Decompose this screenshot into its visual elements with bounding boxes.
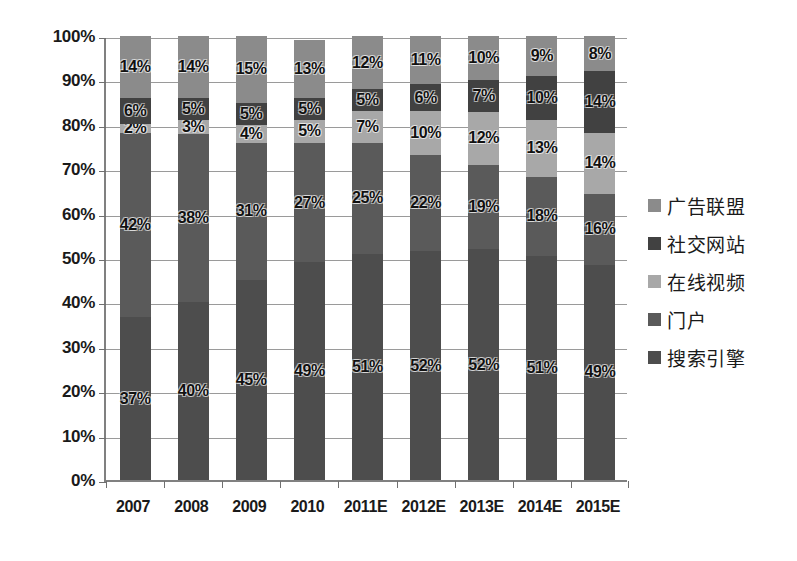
bar-stack[interactable]: 45%31%4%5%15% [236,36,267,480]
bar-segment[interactable]: 37% [120,317,151,480]
bar-stack[interactable]: 51%18%13%10%9% [526,36,557,480]
bar-segment[interactable]: 14% [584,71,615,133]
y-axis-tick-label: 30% [29,338,95,358]
y-tick-mark [99,260,106,261]
legend-item[interactable]: 搜索引擎 [648,338,793,376]
bar-value-label: 51% [526,359,557,377]
bar-segment[interactable]: 25% [352,143,383,254]
legend-item[interactable]: 广告联盟 [648,186,793,224]
bar-segment[interactable]: 6% [410,84,441,110]
x-tick-mark [338,481,339,488]
bar-segment[interactable]: 8% [584,36,615,71]
bar-segment[interactable]: 13% [294,40,325,98]
bar-stack[interactable]: 40%38%3%5%14% [178,36,209,480]
bar-segment[interactable]: 31% [236,143,267,281]
bar-segment[interactable]: 18% [526,177,557,256]
x-axis-tick-label: 2013E [453,498,511,516]
bar-value-label: 10% [410,124,441,142]
bar-segment[interactable]: 49% [584,265,615,480]
bar-segment[interactable]: 2% [120,124,151,133]
bar-segment[interactable]: 14% [120,36,151,98]
x-axis-tick-label: 2012E [395,498,453,516]
bar-value-label: 51% [352,358,383,376]
legend-item[interactable]: 社交网站 [648,224,793,262]
bar-segment[interactable]: 10% [410,111,441,155]
bar-segment[interactable]: 51% [526,256,557,480]
bar-stack[interactable]: 51%25%7%5%12% [352,36,383,480]
bar-segment[interactable]: 14% [178,36,209,98]
bar-value-label: 13% [294,60,325,78]
legend-item[interactable]: 门户 [648,300,793,338]
legend-label: 搜索引擎 [667,344,745,371]
legend-swatch [648,351,661,364]
bar-segment[interactable]: 52% [410,251,441,480]
y-axis-tick-label: 10% [29,427,95,447]
bar-segment[interactable]: 5% [294,98,325,120]
bar-value-label: 25% [352,189,383,207]
bar-value-label: 6% [124,102,146,120]
bar-value-label: 15% [236,60,267,78]
bar-segment[interactable]: 12% [352,36,383,89]
bar-segment[interactable]: 27% [294,143,325,263]
y-tick-mark [99,393,106,394]
legend: 广告联盟社交网站在线视频门户搜索引擎 [648,186,793,376]
bar-value-label: 5% [356,91,378,109]
bar-segment[interactable]: 7% [468,80,499,111]
bar-stack[interactable]: 52%19%12%7%10% [468,36,499,480]
bar-segment[interactable]: 38% [178,134,209,303]
bar-segment[interactable]: 10% [468,36,499,80]
bar-segment[interactable]: 5% [236,103,267,125]
bar-value-label: 16% [585,220,616,238]
bar-segment[interactable]: 3% [178,120,209,133]
bar-segment[interactable]: 11% [410,36,441,84]
bar-segment[interactable]: 12% [468,112,499,165]
bar-segment[interactable]: 45% [236,280,267,480]
y-tick-mark [99,482,106,483]
bar-stack[interactable]: 52%22%10%6%11% [410,36,441,480]
bar-segment[interactable]: 19% [468,165,499,249]
bar-value-label: 18% [526,207,557,225]
bar-value-label: 14% [585,93,616,111]
bar-segment[interactable]: 14% [584,133,615,195]
y-axis-tick-label: 50% [29,249,95,269]
x-tick-mark [164,481,165,488]
bar-value-label: 10% [468,49,499,67]
bar-segment[interactable]: 40% [178,302,209,480]
x-axis-tick-label: 2011E [336,498,394,516]
bar-value-label: 14% [120,58,151,76]
legend-label: 广告联盟 [667,192,745,219]
bar-segment[interactable]: 52% [468,249,499,480]
bar-segment[interactable]: 10% [526,76,557,120]
bar-segment[interactable]: 4% [236,125,267,143]
bar-value-label: 10% [526,89,557,107]
bar-value-label: 5% [240,105,262,123]
bar-segment[interactable]: 42% [120,133,151,318]
bar-stack[interactable]: 49%16%14%14%8% [584,36,615,480]
legend-label: 门户 [667,306,706,333]
bar-segment[interactable]: 5% [352,89,383,111]
bar-segment[interactable]: 6% [120,98,151,124]
x-axis-tick-label: 2014E [511,498,569,516]
bar-segment[interactable]: 5% [294,120,325,142]
y-axis-tick-label: 90% [29,71,95,91]
bar-segment[interactable]: 7% [352,111,383,142]
bar-segment[interactable]: 5% [178,98,209,120]
bar-segment[interactable]: 15% [236,36,267,103]
legend-item[interactable]: 在线视频 [648,262,793,300]
bar-value-label: 19% [468,198,499,216]
bar-value-label: 27% [294,194,325,212]
legend-swatch [648,199,661,212]
bar-segment[interactable]: 51% [352,254,383,480]
bar-value-label: 52% [410,357,441,375]
stacked-bar-chart: 0%10%20%30%40%50%60%70%80%90%100% 37%42%… [0,0,797,561]
bar-segment[interactable]: 22% [410,155,441,252]
bar-segment[interactable]: 49% [294,262,325,480]
bar-value-label: 14% [585,154,616,172]
y-tick-mark [99,438,106,439]
bar-stack[interactable]: 37%42%2%6%14% [120,36,151,480]
bar-segment[interactable]: 9% [526,36,557,76]
bar-stack[interactable]: 49%27%5%5%13% [294,36,325,480]
bar-segment[interactable]: 13% [526,120,557,177]
bar-segment[interactable]: 16% [584,194,615,264]
x-axis-tick-label: 2009 [220,498,278,516]
